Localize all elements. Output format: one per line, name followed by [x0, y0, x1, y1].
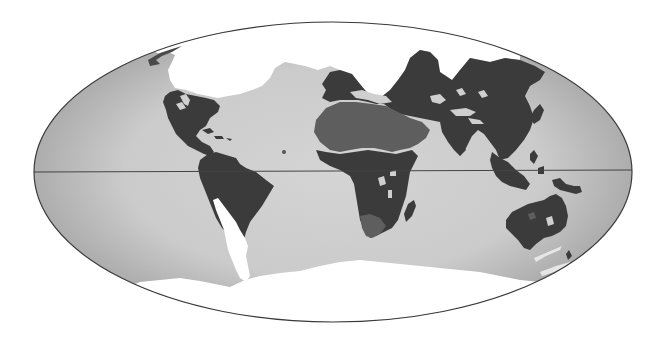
world-map [0, 0, 663, 341]
map-svg [0, 0, 663, 341]
atlantic-island [282, 150, 286, 154]
